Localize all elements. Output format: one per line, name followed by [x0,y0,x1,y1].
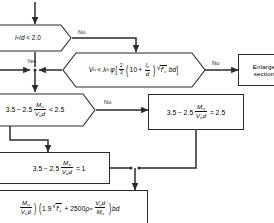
capacity-inner-const: 10 [130,67,138,74]
capacity-radicand-sub: c [164,69,166,74]
edge-label-ratio-no: No [104,99,111,105]
ratio25-frac: Mu Vud [195,104,207,120]
ratio25-b: 2.5 [183,109,193,116]
ratio25-num-sub: u [202,106,204,111]
edge-label-slenderness-no: No [78,29,85,35]
process-enlarge-line2: section [253,70,274,77]
process-enlarge-line1: Enlarge [253,63,274,70]
junction-yes [34,69,37,72]
junction-merge-left [130,167,133,170]
wire-ratio25-to-merge [139,130,196,168]
vc-frac1-num-sub: u [27,202,29,207]
ratio1-minus: − [43,165,50,172]
capacity-inner-den: d [145,70,151,77]
decision-capacity[interactable]: Vu < λ0 φ [ 2 3 ( 10 + ln d ) √ [62,52,206,88]
ratio1-frac: Mu Vud [61,160,73,176]
ratio-num-sub: u [41,104,43,109]
process-ratio1-text: 3.5 − 2.5 Mu Vud = 1 [7,160,86,176]
capacity-inner-plus: + [137,67,143,74]
capacity-two-thirds: 2 3 [119,64,124,75]
vc-rho-sub: w [89,206,92,211]
flowchart-canvas: ln/d < 2.0 Vu < λ0 φ [ 2 3 ( 10 [0,0,274,223]
ratio25-value: 2.5 [215,109,225,116]
ratio1-value: 1 [81,165,85,172]
capacity-sqrt: √ f′c [157,65,167,74]
process-vc-formula[interactable]: Mu Vud ) ( 1.9 √ f′c + 2500ρw Vud Mu ) b… [0,190,148,223]
process-ratio-equals-2point5[interactable]: 3.5 − 2.5 Mu Vud = 2.5 [148,94,244,130]
ratio-op: < [48,106,55,113]
vc-coef: 1.9 [42,205,52,212]
capacity-op: < [96,67,103,74]
vc-frac2-num-d: d [102,200,106,206]
vc-frac2: Vud Mu [94,200,106,216]
process-ratio-equals-1[interactable]: 3.5 − 2.5 Mu Vud = 1 [0,152,110,184]
process-vc-text: Mu Vud ) ( 1.9 √ f′c + 2500ρw Vud Mu ) b… [0,200,120,216]
ratio25-den-d: d [203,112,207,119]
ratio-minus: − [16,106,23,113]
ratio-b: 2.5 [22,106,32,113]
decision-slenderness[interactable]: ln/d < 2.0 [0,24,72,52]
ratio1-num-sub: u [68,162,70,167]
capacity-phi: φ [109,67,115,74]
wire-slenderness-no [72,38,136,52]
vc-frac1-den-d: d [27,209,31,215]
edge-label-capacity-no: No [212,60,219,66]
process-enlarge-text: Enlarge section [253,63,274,78]
slenderness-op: < [25,35,32,42]
process-enlarge-section[interactable]: Enlarge section [238,54,274,86]
decision-capacity-label: Vu < λ0 φ [ 2 3 ( 10 + ln d ) √ [62,52,206,88]
ratio25-op: = [209,109,216,116]
vc-frac2-den-sub: u [102,211,104,216]
ratio1-a: 3.5 [33,165,43,172]
ratio-value: 2.5 [54,106,64,113]
ratio25-a: 3.5 [167,109,177,116]
ratio1-op: = [75,165,82,172]
decision-ratio-label: 3.5 − 2.5 Mu Vud < 2.5 [0,93,96,127]
ratio-frac: Mu Vud [34,102,46,118]
decision-slenderness-label: ln/d < 2.0 [0,24,72,52]
ratio1-den-d: d [69,168,73,175]
capacity-frac-den: 3 [119,69,124,75]
junction-merge-right [138,167,141,170]
ratio1-b: 2.5 [49,165,59,172]
vc-frac1: Mu Vud [20,200,32,216]
capacity-tail: bd [168,67,177,74]
vc-sqrt: √ f′c [52,203,62,213]
capacity-inner-frac: ln d [145,62,151,77]
vc-radicand-sub: c [60,208,62,213]
ratio-den-d: d [42,110,46,117]
capacity-inner-num-sub: n [147,64,149,69]
slenderness-value: 2.0 [32,35,41,42]
vc-tail: bd [112,205,120,212]
ratio25-minus: − [177,109,184,116]
ratio-a: 3.5 [6,106,16,113]
decision-ratio[interactable]: 3.5 − 2.5 Mu Vud < 2.5 [0,93,96,127]
process-ratio25-text: 3.5 − 2.5 Mu Vud = 2.5 [167,104,226,120]
vc-const: 2500 [70,205,85,212]
edge-label-slenderness-yes: Yes [27,58,36,64]
vc-plus: + [63,205,70,212]
